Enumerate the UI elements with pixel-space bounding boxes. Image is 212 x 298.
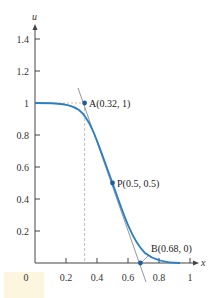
y-tick-label: 1 xyxy=(24,98,29,109)
x-tick-label: 0.4 xyxy=(91,272,104,283)
x-axis xyxy=(35,258,199,266)
point-a xyxy=(82,101,87,106)
x-tick-label: 1 xyxy=(188,272,193,283)
x-axis-label: x xyxy=(200,257,206,268)
x-tick-label: 0.8 xyxy=(153,272,166,283)
y-tick-label: 0.4 xyxy=(17,194,30,205)
y-tick-label: 0.6 xyxy=(17,162,30,173)
x-tick-label: 0.6 xyxy=(122,272,135,283)
y-axis-label: u xyxy=(32,11,37,22)
y-tick-label: 1.2 xyxy=(17,66,30,77)
y-tick-label: 0.2 xyxy=(17,226,30,237)
point-p-label: P(0.5, 0.5) xyxy=(117,178,159,190)
y-axis xyxy=(33,24,41,263)
x-tick-label: 0.2 xyxy=(60,272,73,283)
point-b-label: B(0.68, 0) xyxy=(151,243,192,255)
y-tick-label: 0.8 xyxy=(17,130,30,141)
point-b xyxy=(138,261,143,266)
point-a-label: A(0.32, 1) xyxy=(89,98,130,110)
y-tick-label: 1.4 xyxy=(17,34,30,45)
origin-label: 0 xyxy=(24,272,29,283)
chart: 0 0.2 0.4 0.6 0.8 1 0.2 0.4 0.6 0.8 1 1.… xyxy=(0,0,212,298)
leader-line-b xyxy=(142,255,149,262)
point-p xyxy=(110,181,115,186)
